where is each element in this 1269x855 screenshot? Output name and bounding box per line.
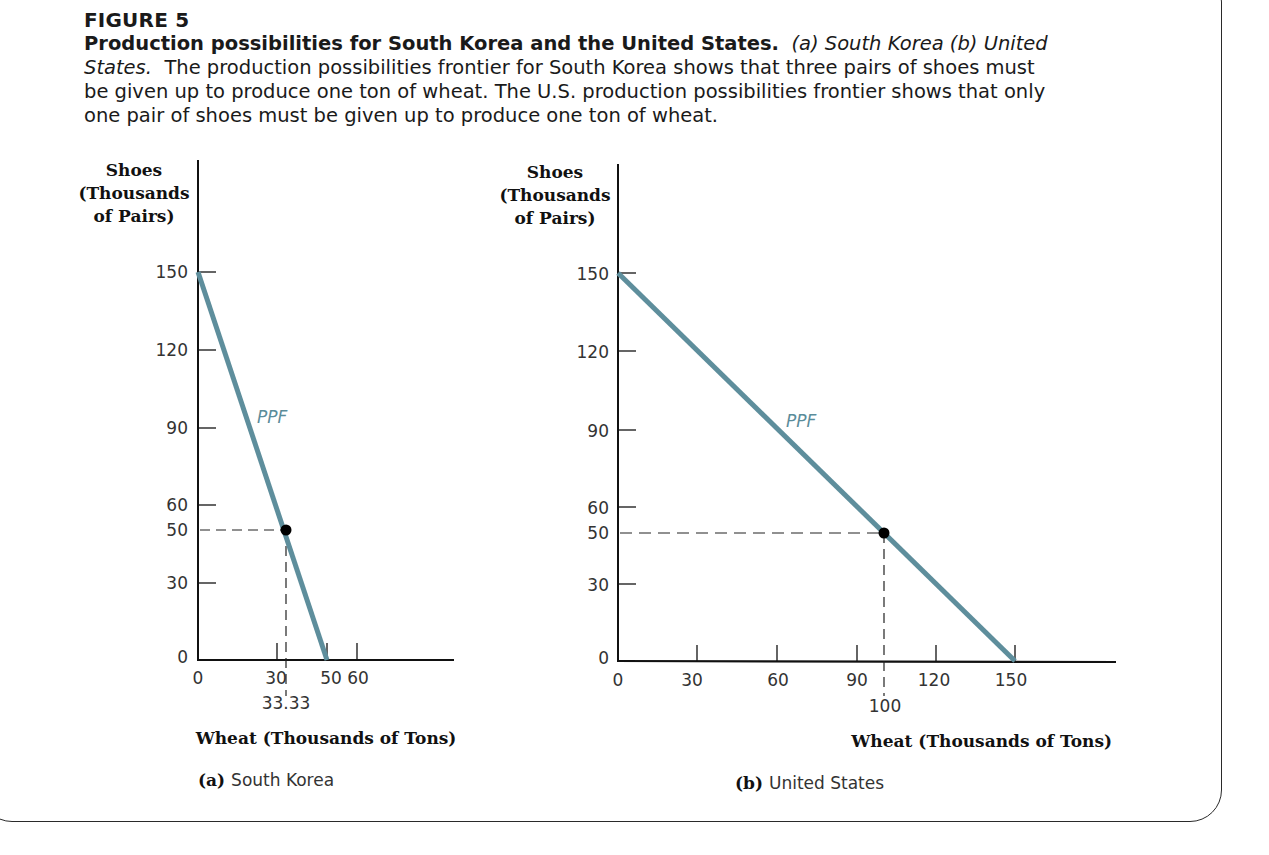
panel-caption-b: (b)United States (735, 773, 884, 793)
y-axis-label-line3: of Pairs) (515, 208, 596, 228)
y-axis-label-line1: Shoes (527, 162, 583, 182)
y-axis-label-line2: (Thousands (499, 185, 610, 205)
x-tick-30: 30 (265, 668, 287, 688)
y-tick-30: 30 (587, 575, 609, 595)
x-tick-100: 100 (869, 696, 901, 716)
y-tick-60: 60 (166, 495, 188, 515)
production-point (281, 525, 292, 536)
y-tick-120: 120 (577, 342, 609, 362)
x-ticks: 0 30 33.33 50 60 (193, 643, 369, 713)
x-tick-0: 0 (613, 670, 624, 690)
y-tick-150: 150 (156, 262, 188, 282)
y-tick-90: 90 (166, 418, 188, 438)
production-point (879, 528, 890, 539)
y-ticks: 150 120 90 60 50 30 0 (156, 262, 216, 667)
y-tick-0: 0 (177, 647, 188, 667)
y-tick-120: 120 (156, 340, 188, 360)
ppf-line (618, 273, 1015, 661)
y-axis-label-line1: Shoes (106, 160, 162, 180)
y-tick-150: 150 (577, 264, 609, 284)
x-tick-90: 90 (846, 670, 868, 690)
y-tick-90: 90 (587, 421, 609, 441)
panel-caption-a: (a)South Korea (198, 770, 334, 790)
x-tick-30: 30 (681, 670, 703, 690)
ppf-label: PPF (786, 411, 817, 431)
x-tick-120: 120 (918, 670, 950, 690)
ppf-label: PPF (257, 407, 288, 427)
y-tick-0: 0 (598, 648, 609, 668)
x-tick-150: 150 (995, 670, 1027, 690)
chart-united-states: Shoes (Thousands of Pairs) 150 120 90 60… (499, 162, 1116, 793)
y-ticks: 150 120 90 60 50 30 0 (577, 264, 636, 668)
x-tick-60: 60 (347, 668, 369, 688)
charts-canvas: Shoes (Thousands of Pairs) 150 120 90 60… (0, 0, 1269, 855)
y-tick-50: 50 (166, 520, 188, 540)
y-tick-60: 60 (587, 498, 609, 518)
x-axis-label: Wheat (Thousands of Tons) (195, 728, 457, 748)
x-tick-50: 50 (320, 668, 342, 688)
y-tick-50: 50 (587, 523, 609, 543)
ppf-line (198, 272, 327, 660)
x-tick-0: 0 (193, 668, 204, 688)
x-ticks: 0 30 60 90 100 120 150 (613, 645, 1028, 716)
chart-south-korea: Shoes (Thousands of Pairs) 150 120 90 60… (78, 160, 456, 790)
x-tick-60: 60 (767, 670, 789, 690)
y-axis-label-line2: (Thousands (78, 183, 189, 203)
y-tick-30: 30 (166, 573, 188, 593)
x-axis (617, 661, 1116, 662)
x-axis-label: Wheat (Thousands of Tons) (850, 731, 1112, 751)
y-axis-label-line3: of Pairs) (94, 206, 175, 226)
